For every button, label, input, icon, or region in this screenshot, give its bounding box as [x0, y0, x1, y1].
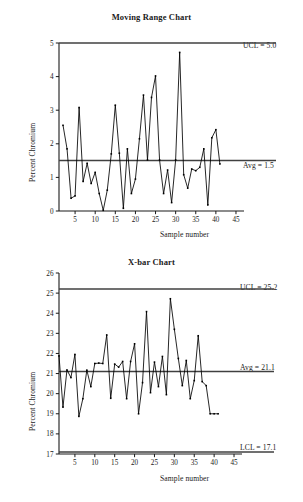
data-point-marker [123, 208, 125, 210]
data-point-marker [126, 398, 128, 400]
moving-range-plot-area: 01234551015202530354045 [0, 0, 303, 251]
data-point-marker [215, 129, 217, 131]
data-point-marker [155, 75, 157, 77]
data-point-marker [199, 167, 201, 169]
data-point-marker [78, 416, 80, 418]
data-point-marker [209, 413, 211, 415]
data-point-marker [211, 137, 213, 139]
y-tick-label: 26 [46, 270, 54, 278]
data-point-marker [175, 159, 177, 161]
data-point-marker [191, 168, 193, 170]
x-tick-label: 40 [212, 216, 220, 224]
x-tick-label: 15 [111, 459, 119, 467]
data-point-marker [106, 334, 108, 336]
data-point-marker [102, 210, 104, 212]
y-tick-label: 3 [50, 107, 54, 115]
y-tick-label: 5 [50, 40, 54, 48]
data-series-line [63, 52, 220, 210]
x-tick-label: 40 [211, 459, 219, 467]
data-point-marker [131, 193, 133, 195]
data-point-marker [102, 363, 104, 365]
data-point-marker [189, 398, 191, 400]
data-point-marker [127, 148, 129, 150]
data-point-marker [86, 369, 88, 371]
data-point-marker [213, 413, 215, 415]
x-tick-label: 30 [171, 459, 179, 467]
data-point-marker [58, 355, 60, 357]
data-point-marker [205, 385, 207, 387]
data-point-marker [106, 189, 108, 191]
x-bar-plot-area: 1718192021222324252651015202530354045 [0, 251, 303, 502]
data-point-marker [183, 174, 185, 176]
data-point-marker [170, 298, 172, 300]
data-point-marker [86, 162, 88, 164]
data-point-marker [197, 335, 199, 337]
data-point-marker [62, 125, 64, 127]
data-point-marker [90, 183, 92, 185]
data-point-marker [90, 386, 92, 388]
y-tick-label: 21 [46, 370, 54, 378]
data-point-marker [82, 398, 84, 400]
data-point-marker [187, 187, 189, 189]
x-tick-label: 20 [132, 216, 140, 224]
data-point-marker [94, 363, 96, 365]
x-tick-label: 5 [73, 459, 77, 467]
data-point-marker [70, 197, 72, 199]
data-point-marker [154, 361, 156, 363]
data-point-marker [114, 363, 116, 365]
data-point-marker [66, 369, 68, 371]
data-point-marker [174, 329, 176, 331]
x-tick-label: 25 [151, 459, 159, 467]
data-point-marker [182, 385, 184, 387]
x-tick-label: 35 [192, 216, 200, 224]
x-tick-label: 25 [152, 216, 160, 224]
data-point-marker [193, 380, 195, 382]
y-tick-label: 17 [46, 451, 54, 459]
data-point-marker [146, 311, 148, 313]
y-tick-label: 25 [46, 290, 54, 298]
y-tick-label: 24 [46, 310, 54, 318]
y-tick-label: 18 [46, 430, 54, 438]
data-point-marker [134, 343, 136, 345]
data-point-marker [135, 178, 137, 180]
data-point-marker [217, 413, 219, 415]
x-tick-label: 45 [230, 459, 238, 467]
y-tick-label: 19 [46, 410, 54, 418]
data-point-marker [203, 148, 205, 150]
data-point-marker [70, 377, 72, 379]
data-point-marker [138, 413, 140, 415]
x-tick-label: 35 [191, 459, 199, 467]
data-point-marker [147, 159, 149, 161]
data-point-marker [62, 406, 64, 408]
data-point-marker [98, 362, 100, 364]
data-point-marker [163, 193, 165, 195]
x-tick-label: 45 [232, 216, 240, 224]
data-point-marker [159, 159, 161, 161]
data-point-marker [82, 181, 84, 183]
data-point-marker [207, 204, 209, 206]
data-point-marker [74, 195, 76, 197]
data-point-marker [142, 382, 144, 384]
data-point-marker [115, 104, 117, 106]
x-tick-label: 30 [172, 216, 180, 224]
data-point-marker [158, 386, 160, 388]
moving-range-chart: Moving Range Chart Percent Chromium Samp… [0, 0, 303, 251]
data-point-marker [139, 138, 141, 140]
y-tick-label: 22 [46, 350, 54, 358]
data-point-marker [150, 392, 152, 394]
data-point-marker [98, 193, 100, 195]
data-point-marker [94, 172, 96, 174]
data-point-marker [122, 361, 124, 363]
y-tick-label: 0 [50, 208, 54, 216]
data-point-marker [166, 394, 168, 396]
data-point-marker [119, 152, 121, 154]
data-point-marker [78, 107, 80, 109]
y-tick-label: 2 [50, 140, 54, 148]
data-point-marker [219, 163, 221, 165]
data-point-marker [66, 148, 68, 150]
y-tick-label: 20 [46, 390, 54, 398]
data-point-marker [151, 97, 153, 99]
data-point-marker [118, 366, 120, 368]
x-tick-label: 10 [91, 459, 99, 467]
data-point-marker [201, 381, 203, 383]
